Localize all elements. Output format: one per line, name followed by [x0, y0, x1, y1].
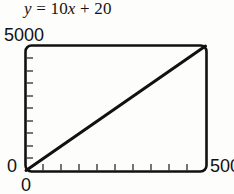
graph-figure: y = 10x + 20 5000 0 0 5000	[0, 0, 234, 194]
x-axis-ticks	[43, 164, 187, 171]
plotted-line	[26, 46, 206, 171]
y-axis-ticks	[26, 58, 33, 158]
plot-area	[0, 0, 234, 194]
